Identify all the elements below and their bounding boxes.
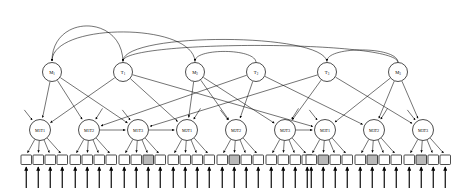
observation-square (180, 155, 191, 165)
observation-square (21, 155, 32, 165)
node-label: M2T2 (231, 128, 241, 133)
diagram-root: M1T1M1T2M1T3M2T1M2T2M2T3M3T1M3T2M3T3 M1T… (0, 0, 453, 190)
observation-square (367, 155, 378, 165)
mid-to-square-edge (323, 141, 324, 153)
mid-to-square-edge (175, 139, 182, 152)
observation-square (266, 155, 277, 165)
top-node-t1: T1 (114, 63, 133, 82)
long-arc-edges (52, 26, 398, 63)
mid-to-square-edge (378, 140, 383, 153)
mid-to-square-edge (38, 141, 39, 153)
top-to-mid-edge (379, 81, 394, 118)
observation-square (217, 155, 228, 165)
observation-square (416, 155, 427, 165)
mid-to-square-edge (234, 141, 235, 153)
node-label: M1T2 (84, 128, 94, 133)
mid-node-m3t1: M3T1 (315, 120, 336, 141)
free-incoming-arrow (381, 108, 388, 119)
mid-to-square-edge (283, 141, 284, 153)
mid-to-square-edge (329, 140, 334, 153)
long-arc-edge (327, 50, 398, 63)
top-to-mid-edge (292, 80, 321, 120)
mid-to-square-edge (289, 140, 294, 153)
observation-square (318, 155, 329, 165)
observation-square (330, 155, 341, 165)
top-node-t2: T2 (247, 63, 266, 82)
observation-square (131, 155, 142, 165)
top-to-mid-edge (189, 82, 194, 118)
top-node-t3: T3 (318, 63, 337, 82)
node-label: M2T1 (182, 128, 192, 133)
observation-square (229, 155, 240, 165)
observation-square (355, 155, 366, 165)
mid-node-m1t1: M1T1 (30, 120, 51, 141)
free-incoming-arrow (407, 110, 415, 120)
free-incoming-arrow (220, 110, 228, 120)
free-incoming-arrow (24, 110, 32, 120)
mid-to-square-edge (362, 139, 369, 152)
mid-to-square-edge (292, 138, 305, 153)
node-label: M1T1 (35, 128, 45, 133)
long-arc-edge (123, 39, 327, 62)
node-label: M3T1 (320, 128, 330, 133)
mid-node-m1t2: M1T2 (79, 120, 100, 141)
observation-square (204, 155, 215, 165)
observation-square (94, 155, 105, 165)
mid-level-nodes: M1T1M1T2M1T3M2T1M2T2M2T3M3T1M3T2M3T3 (30, 120, 434, 141)
mid-to-square-edge (240, 140, 245, 153)
node-label: M2T3 (280, 128, 290, 133)
top-to-mid-edge (130, 79, 177, 122)
top-to-mid-edge (133, 75, 313, 127)
observation-square (241, 155, 252, 165)
graph-canvas: M1T1M1T2M1T3M2T1M2T2M2T3M3T1M3T2M3T3 M1T… (0, 0, 453, 190)
input-arrows (26, 167, 445, 188)
observation-square (57, 155, 68, 165)
long-arc-edge (52, 26, 123, 63)
mid-to-square-edge (372, 141, 373, 153)
mid-to-square-edge (142, 140, 147, 153)
observation-squares (21, 155, 451, 165)
mid-to-square-edge (185, 141, 186, 153)
mid-to-square-edge (145, 138, 158, 153)
top-to-mid-edge (60, 78, 127, 123)
top-to-mid-edge (335, 78, 390, 122)
mid-node-m2t3: M2T3 (275, 120, 296, 141)
observation-square (192, 155, 203, 165)
mid-to-square-edge (93, 140, 98, 153)
mid-to-square-edge (44, 140, 49, 153)
observation-square (253, 155, 264, 165)
mid-to-square-edge (313, 139, 320, 152)
mid-node-m3t3: M3T3 (413, 120, 434, 141)
observation-square (155, 155, 166, 165)
mid-node-m2t1: M2T1 (177, 120, 198, 141)
mid-to-square-edge (421, 141, 422, 153)
observation-square (428, 155, 439, 165)
mid-to-square-edge (191, 140, 196, 153)
mid-node-m1t3: M1T3 (128, 120, 149, 141)
free-incoming-arrow (309, 110, 317, 120)
free-incoming-arrow (122, 110, 130, 120)
free-incoming-arrow (96, 108, 103, 119)
mid-node-m3t2: M3T2 (364, 120, 385, 141)
top-to-mid-edge (240, 81, 253, 118)
mid-to-square-edge (194, 138, 207, 153)
node-label: M3T3 (418, 128, 428, 133)
top-to-mid-edge (402, 81, 418, 118)
free-incoming-arrow (194, 108, 201, 119)
mid-to-square-edge (96, 138, 109, 153)
top-node-m3: M3 (389, 63, 408, 82)
observation-square (278, 155, 289, 165)
top-to-mid-edge (57, 80, 82, 119)
observation-square (143, 155, 154, 165)
mid-to-square-edge (411, 139, 418, 152)
top-to-mid-edge (43, 82, 50, 118)
observation-square (106, 155, 117, 165)
mid-to-square-edge (427, 140, 432, 153)
observation-square (45, 155, 56, 165)
observation-square (306, 155, 317, 165)
observation-square (70, 155, 81, 165)
mid-to-square-edge (430, 138, 443, 153)
mid-to-square-edge (332, 138, 345, 153)
mid-to-square-edge (77, 139, 84, 152)
observation-square (290, 155, 301, 165)
